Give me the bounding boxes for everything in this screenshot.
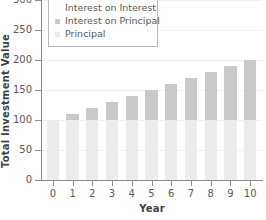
bar-segment bbox=[185, 78, 197, 120]
x-tick-mark bbox=[53, 181, 54, 186]
legend-swatch-icon bbox=[55, 19, 60, 24]
bar-segment bbox=[244, 120, 256, 180]
legend-item[interactable]: Interest on Principal bbox=[53, 15, 152, 27]
y-tick-label: 250 bbox=[2, 24, 32, 35]
bar-segment bbox=[126, 96, 138, 120]
bar bbox=[244, 0, 256, 180]
bar-segment bbox=[205, 72, 217, 120]
y-tick-label: 150 bbox=[2, 84, 32, 95]
x-tick-mark bbox=[230, 181, 231, 186]
x-tick-mark bbox=[211, 181, 212, 186]
x-tick-label: 0 bbox=[43, 188, 63, 199]
y-tick-label: 100 bbox=[2, 114, 32, 125]
x-tick-mark bbox=[92, 181, 93, 186]
y-axis-title: Total Investment Value bbox=[0, 22, 14, 180]
x-tick-mark bbox=[112, 181, 113, 186]
x-tick-label: 7 bbox=[181, 188, 201, 199]
x-tick-label: 2 bbox=[82, 188, 102, 199]
bar bbox=[165, 0, 177, 180]
x-tick-label: 9 bbox=[220, 188, 240, 199]
bar-segment bbox=[86, 108, 98, 120]
bar bbox=[185, 0, 197, 180]
y-tick-label: 50 bbox=[2, 144, 32, 155]
x-tick-mark bbox=[250, 181, 251, 186]
x-tick-label: 1 bbox=[63, 188, 83, 199]
bar-segment bbox=[165, 120, 177, 180]
legend: Interest on InterestInterest on Principa… bbox=[48, 0, 158, 47]
legend-label: Interest on Interest bbox=[65, 2, 156, 14]
x-tick-label: 3 bbox=[102, 188, 122, 199]
bar-segment bbox=[185, 120, 197, 180]
investment-growth-chart: Total Investment Value 30025020015010050… bbox=[0, 0, 266, 220]
bar bbox=[205, 0, 217, 180]
x-tick-label: 6 bbox=[161, 188, 181, 199]
y-tick-label: 0 bbox=[2, 174, 32, 185]
legend-swatch-icon bbox=[55, 32, 60, 37]
x-tick-mark bbox=[191, 181, 192, 186]
x-tick-mark bbox=[171, 181, 172, 186]
y-axis-title-wrap: Total Investment Value bbox=[0, 22, 14, 180]
x-tick-mark bbox=[73, 181, 74, 186]
legend-label: Principal bbox=[65, 28, 105, 40]
bar-segment bbox=[145, 90, 157, 120]
legend-swatch-icon bbox=[55, 6, 60, 11]
legend-item[interactable]: Interest on Interest bbox=[53, 2, 152, 14]
bar-segment bbox=[145, 120, 157, 180]
bar-segment bbox=[106, 120, 118, 180]
x-axis-title: Year bbox=[41, 203, 263, 214]
x-tick-label: 10 bbox=[240, 188, 260, 199]
bar-segment bbox=[205, 120, 217, 180]
bar bbox=[224, 0, 236, 180]
bar-segment bbox=[224, 120, 236, 180]
bar-segment bbox=[86, 120, 98, 180]
bar-segment bbox=[126, 120, 138, 180]
bar-segment bbox=[244, 60, 256, 120]
bar-segment bbox=[106, 102, 118, 120]
bar-segment bbox=[66, 114, 78, 120]
bar-segment bbox=[47, 120, 59, 180]
bar-segment bbox=[165, 84, 177, 120]
legend-label: Interest on Principal bbox=[65, 15, 160, 27]
x-tick-label: 8 bbox=[201, 188, 221, 199]
bar-segment bbox=[224, 66, 236, 120]
y-tick-label: 300 bbox=[2, 0, 32, 5]
legend-item[interactable]: Principal bbox=[53, 28, 152, 40]
bar-segment bbox=[66, 120, 78, 180]
y-tick-label: 200 bbox=[2, 54, 32, 65]
y-axis-line bbox=[41, 0, 42, 181]
x-tick-label: 4 bbox=[122, 188, 142, 199]
x-tick-label: 5 bbox=[142, 188, 162, 199]
x-tick-mark bbox=[152, 181, 153, 186]
x-tick-mark bbox=[132, 181, 133, 186]
